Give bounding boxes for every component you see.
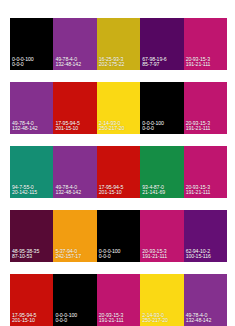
swatch-rgb-value: 0-0-0 [55,318,95,324]
swatch-labels: 62-94-10-2100-15-116 [186,249,226,260]
swatch-rgb-value: 87-10-53 [12,254,52,260]
swatch-labels: 49-78-4-0132-48-142 [12,121,52,132]
color-swatch[interactable]: 5-37-94-0242-157-17 [53,210,96,262]
color-swatch[interactable]: 0-0-0-1000-0-0 [53,274,96,326]
swatch-rgb-value: 250-217-20 [99,126,139,132]
swatch-labels: 94-7-55-020-142-115 [12,185,52,196]
swatch-labels: 16-25-93-3202-175-22 [99,57,139,68]
swatch-rgb-value: 201-15-10 [55,126,95,132]
color-swatch[interactable]: 17-95-94-5201-15-10 [10,274,53,326]
swatch-rgb-value: 191-21-111 [99,318,139,324]
color-swatch[interactable]: 20-93-15-3191-21-111 [184,18,227,70]
swatch-labels: 49-78-4-0132-48-142 [186,313,226,324]
swatch-labels: 20-93-15-3191-21-111 [142,249,182,260]
swatch-labels: 0-0-0-1000-0-0 [99,249,139,260]
swatch-rgb-value: 21-141-69 [142,190,182,196]
color-swatch[interactable]: 67-98-19-685-7-97 [140,18,183,70]
color-swatch[interactable]: 62-94-10-2100-15-116 [184,210,227,262]
color-swatch[interactable]: 49-78-4-0132-48-142 [10,82,53,134]
color-swatch[interactable]: 17-95-94-5201-15-10 [53,82,96,134]
color-swatch[interactable]: 49-78-4-0132-48-142 [53,146,96,198]
palette-row-4: 48-95-38-3587-10-535-37-94-0242-157-170-… [10,210,227,262]
swatch-rgb-value: 191-21-111 [186,126,226,132]
color-swatch[interactable]: 0-0-0-1000-0-0 [140,82,183,134]
color-swatch[interactable]: 16-25-93-3202-175-22 [97,18,140,70]
swatch-rgb-value: 202-175-22 [99,62,139,68]
color-swatch[interactable]: 94-7-55-020-142-115 [10,146,53,198]
palette-row-3: 94-7-55-020-142-11549-78-4-0132-48-14217… [10,146,227,198]
swatch-rgb-value: 191-21-111 [186,62,226,68]
swatch-rgb-value: 132-48-142 [55,62,95,68]
color-swatch[interactable]: 0-0-0-1000-0-0 [97,210,140,262]
swatch-labels: 0-0-0-1000-0-0 [142,121,182,132]
color-swatch[interactable]: 17-95-94-5201-15-10 [97,146,140,198]
swatch-labels: 49-78-4-0132-48-142 [55,57,95,68]
swatch-labels: 20-93-15-3191-21-111 [186,185,226,196]
swatch-rgb-value: 191-21-111 [186,190,226,196]
swatch-rgb-value: 191-21-111 [142,254,182,260]
swatch-labels: 5-37-94-0242-157-17 [55,249,95,260]
swatch-rgb-value: 201-15-10 [12,318,52,324]
swatch-rgb-value: 0-0-0 [142,126,182,132]
swatch-rgb-value: 100-15-116 [186,254,226,260]
swatch-labels: 20-93-15-3191-21-111 [186,121,226,132]
color-swatch[interactable]: 20-93-15-3191-21-111 [184,146,227,198]
color-swatch[interactable]: 20-93-15-3191-21-111 [184,82,227,134]
swatch-rgb-value: 132-48-142 [186,318,226,324]
swatch-rgb-value: 0-0-0 [99,254,139,260]
swatch-labels: 20-93-15-3191-21-111 [99,313,139,324]
swatch-rgb-value: 201-15-10 [99,190,139,196]
swatch-rgb-value: 250-217-20 [142,318,182,324]
swatch-labels: 2-14-93-0250-217-20 [142,313,182,324]
swatch-rgb-value: 132-48-142 [55,190,95,196]
swatch-labels: 17-95-94-5201-15-10 [55,121,95,132]
swatch-labels: 17-95-94-5201-15-10 [12,313,52,324]
swatch-rgb-value: 242-157-17 [55,254,95,260]
color-swatch[interactable]: 0-0-0-1000-0-0 [10,18,53,70]
palette-row-5: 17-95-94-5201-15-100-0-0-1000-0-020-93-1… [10,274,227,326]
swatch-rgb-value: 0-0-0 [12,62,52,68]
color-swatch[interactable]: 49-78-4-0132-48-142 [184,274,227,326]
color-swatch[interactable]: 93-4-87-021-141-69 [140,146,183,198]
palette-row-2: 49-78-4-0132-48-14217-95-94-5201-15-102-… [10,82,227,134]
color-swatch[interactable]: 49-78-4-0132-48-142 [53,18,96,70]
swatch-labels: 48-95-38-3587-10-53 [12,249,52,260]
swatch-labels: 0-0-0-1000-0-0 [55,313,95,324]
swatch-rgb-value: 20-142-115 [12,190,52,196]
color-swatch[interactable]: 2-14-93-0250-217-20 [97,82,140,134]
swatch-labels: 67-98-19-685-7-97 [142,57,182,68]
color-swatch[interactable]: 2-14-93-0250-217-20 [140,274,183,326]
color-swatch[interactable]: 20-93-15-3191-21-111 [140,210,183,262]
swatch-labels: 17-95-94-5201-15-10 [99,185,139,196]
swatch-labels: 0-0-0-1000-0-0 [12,57,52,68]
palette-row-1: 0-0-0-1000-0-049-78-4-0132-48-14216-25-9… [10,18,227,70]
swatch-labels: 93-4-87-021-141-69 [142,185,182,196]
color-swatch[interactable]: 48-95-38-3587-10-53 [10,210,53,262]
color-swatch[interactable]: 20-93-15-3191-21-111 [97,274,140,326]
swatch-rgb-value: 132-48-142 [12,126,52,132]
swatch-rgb-value: 85-7-97 [142,62,182,68]
swatch-labels: 20-93-15-3191-21-111 [186,57,226,68]
swatch-labels: 2-14-93-0250-217-20 [99,121,139,132]
swatch-labels: 49-78-4-0132-48-142 [55,185,95,196]
